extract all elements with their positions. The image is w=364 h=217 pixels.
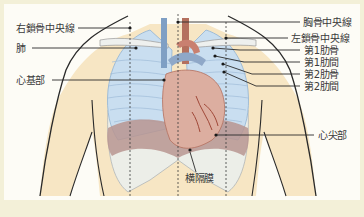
label-left-midclavicular-line: 左鎖骨中央線 <box>291 33 349 44</box>
label-cardiac-apex: 心尖部 <box>318 130 347 141</box>
figure-panel: 右鎖骨中央線 肺 心基部 胸骨中央線 左鎖骨中央線 第1肋骨 第1肋間 第2肋骨… <box>4 4 360 200</box>
label-rib-1: 第1肋骨 <box>304 45 339 56</box>
label-rib-2: 第2肋骨 <box>304 69 339 80</box>
label-right-midclavicular-line: 右鎖骨中央線 <box>16 23 74 34</box>
label-intercostal-space-2: 第2肋間 <box>304 81 339 92</box>
heart <box>163 70 225 148</box>
label-diaphragm: 横隔膜 <box>185 173 214 184</box>
figure-frame: 右鎖骨中央線 肺 心基部 胸骨中央線 左鎖骨中央線 第1肋骨 第1肋間 第2肋骨… <box>0 0 364 217</box>
label-heart-base: 心基部 <box>16 75 45 86</box>
label-intercostal-space-1: 第1肋間 <box>304 57 339 68</box>
label-lung: 肺 <box>16 43 26 54</box>
label-midsternal-line: 胸骨中央線 <box>303 17 352 28</box>
svc <box>161 18 167 68</box>
